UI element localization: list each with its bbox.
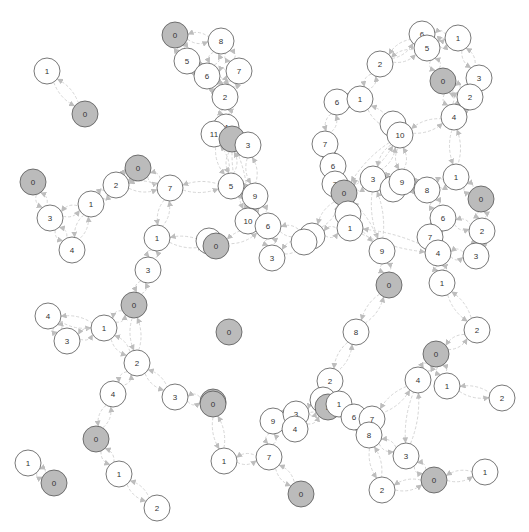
graph-node[interactable]: 1 <box>211 448 237 474</box>
graph-node[interactable]: 2 <box>369 477 395 503</box>
node-label: 6 <box>331 162 336 171</box>
root-node[interactable]: 0 <box>121 292 147 318</box>
graph-node[interactable]: 1 <box>78 191 104 217</box>
graph-node[interactable]: 1 <box>91 315 117 341</box>
root-node[interactable]: 0 <box>41 470 67 496</box>
graph-node[interactable]: 4 <box>59 237 85 263</box>
graph-node[interactable]: 5 <box>414 35 440 61</box>
node-label: 4 <box>436 249 441 258</box>
node-label: 7 <box>323 140 328 149</box>
node-label: 1 <box>454 173 459 182</box>
graph-node[interactable]: 1 <box>15 450 41 476</box>
graph-node[interactable]: 1 <box>472 459 498 485</box>
root-node[interactable]: 0 <box>421 467 447 493</box>
graph-node[interactable]: 9 <box>369 238 395 264</box>
graph-node[interactable]: 2 <box>367 51 393 77</box>
root-node[interactable]: 0 <box>200 391 226 417</box>
graph-node[interactable]: 7 <box>157 175 183 201</box>
graph-node[interactable]: 7 <box>256 444 282 470</box>
graph-node[interactable]: 3 <box>54 328 80 354</box>
node-label: 0 <box>387 281 392 290</box>
node-label: 10 <box>244 217 253 226</box>
graph-node[interactable]: 1 <box>347 86 373 112</box>
graph-node[interactable]: 1 <box>429 270 455 296</box>
graph-node[interactable]: 1 <box>144 225 170 251</box>
graph-node[interactable]: 3 <box>463 243 489 269</box>
root-node[interactable]: 0 <box>203 233 229 259</box>
root-node[interactable]: 0 <box>288 481 314 507</box>
node-label: 1 <box>89 200 94 209</box>
graph-node[interactable]: 8 <box>208 28 234 54</box>
node-label: 3 <box>65 337 70 346</box>
graph-node[interactable]: 1 <box>337 215 363 241</box>
node-label: 3 <box>146 266 151 275</box>
graph-node[interactable]: 8 <box>343 319 369 345</box>
graph-node[interactable]: 3 <box>135 257 161 283</box>
graph-node[interactable]: 6 <box>255 213 281 239</box>
node-label: 6 <box>205 72 210 81</box>
node-label: 1 <box>337 400 342 409</box>
graph-node[interactable]: 1 <box>443 164 469 190</box>
node-label: 3 <box>246 141 251 150</box>
root-node[interactable]: 0 <box>72 101 98 127</box>
root-node[interactable]: 0 <box>216 319 242 345</box>
graph-node[interactable]: 2 <box>124 350 150 376</box>
root-node[interactable]: 0 <box>20 169 46 195</box>
root-node[interactable]: 0 <box>430 68 456 94</box>
root-node[interactable]: 0 <box>162 22 188 48</box>
graph-node[interactable]: 5 <box>218 173 244 199</box>
node-label: 3 <box>48 214 53 223</box>
graph-node[interactable]: 4 <box>405 367 431 393</box>
graph-node[interactable]: 1 <box>434 373 460 399</box>
graph-node[interactable]: 4 <box>425 240 451 266</box>
node-label: 2 <box>328 377 333 386</box>
graph-node[interactable]: 3 <box>162 384 188 410</box>
graph-node[interactable]: 9 <box>389 169 415 195</box>
graph-node[interactable]: 10 <box>387 122 413 148</box>
graph-node[interactable]: 7 <box>226 58 252 84</box>
graph-node[interactable]: 3 <box>235 132 261 158</box>
graph-node[interactable]: 3 <box>393 443 419 469</box>
graph-node[interactable]: 1 <box>445 25 471 51</box>
node-label: 1 <box>117 470 122 479</box>
graph-node[interactable]: 1 <box>34 58 60 84</box>
node-label: 0 <box>52 479 57 488</box>
graph-node[interactable]: 2 <box>464 317 490 343</box>
node-label: 2 <box>480 227 485 236</box>
graph-node[interactable]: 8 <box>414 177 440 203</box>
root-node[interactable]: 0 <box>468 186 494 212</box>
root-node[interactable]: 0 <box>423 341 449 367</box>
graph-node[interactable]: 1 <box>106 461 132 487</box>
root-node[interactable]: 0 <box>125 155 151 181</box>
node-label: 6 <box>441 214 446 223</box>
graph-node[interactable]: 2 <box>212 84 238 110</box>
graph-node[interactable]: 4 <box>441 104 467 130</box>
node-label: 0 <box>31 178 36 187</box>
node-label: 2 <box>475 326 480 335</box>
root-node[interactable]: 0 <box>83 426 109 452</box>
graph-node[interactable]: 4 <box>35 303 61 329</box>
node-circle[interactable] <box>291 229 317 255</box>
graph-node[interactable]: 2 <box>469 218 495 244</box>
graph-node[interactable]: 9 <box>242 183 268 209</box>
graph-node[interactable]: 2 <box>103 172 129 198</box>
node-label: 9 <box>380 247 385 256</box>
node-label: 2 <box>378 60 383 69</box>
graph-node[interactable]: 4 <box>100 381 126 407</box>
graph-node[interactable]: 2 <box>489 385 515 411</box>
node-label: 9 <box>400 178 405 187</box>
graph-node[interactable]: 3 <box>37 205 63 231</box>
node-label: 10 <box>396 131 405 140</box>
graph-node[interactable]: 6 <box>194 63 220 89</box>
graph-node[interactable] <box>291 229 317 255</box>
graph-node[interactable]: 2 <box>144 495 170 521</box>
graph-node[interactable]: 8 <box>356 422 382 448</box>
node-label: 3 <box>270 254 275 263</box>
graph-node[interactable]: 6 <box>324 89 350 115</box>
node-label: 7 <box>237 67 242 76</box>
node-label: 1 <box>155 234 160 243</box>
root-node[interactable]: 0 <box>376 272 402 298</box>
graph-node[interactable]: 4 <box>282 416 308 442</box>
graph-node[interactable]: 3 <box>259 245 285 271</box>
node-label: 1 <box>445 382 450 391</box>
